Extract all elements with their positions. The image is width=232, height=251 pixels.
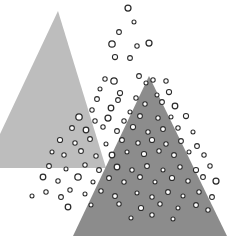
scatter-point <box>201 175 206 180</box>
scatter-point <box>176 126 180 130</box>
scatter-point <box>116 98 121 103</box>
scatter-point <box>130 168 134 172</box>
scatter-point <box>160 100 165 105</box>
scatter-point <box>144 81 148 85</box>
scatter-point <box>109 152 115 158</box>
scatter-point <box>213 178 219 184</box>
scatter-point <box>156 116 160 120</box>
scatter-point <box>161 168 165 172</box>
scatter-point <box>122 119 126 123</box>
scatter-point <box>161 127 166 132</box>
scatter-point <box>193 167 198 172</box>
scatter-point <box>172 153 177 158</box>
scatter-point <box>91 180 95 184</box>
scatter-point <box>112 54 117 59</box>
scatter-point <box>59 195 64 200</box>
scatter-point <box>179 139 184 144</box>
scatter-point <box>134 96 138 100</box>
scatter-point <box>191 130 195 134</box>
scatter-point <box>30 194 34 198</box>
scatter-point <box>62 153 66 157</box>
scatter-point <box>138 175 143 180</box>
scatter-point <box>117 202 121 206</box>
scatter-point <box>104 142 108 146</box>
scatter-point <box>149 137 154 142</box>
scatter-point <box>150 213 154 217</box>
scatter-point <box>117 30 122 35</box>
scatter-point <box>56 179 60 183</box>
scatter-point <box>158 202 162 206</box>
scatter-point <box>89 203 93 207</box>
scatter-point <box>97 168 102 173</box>
scatter-point <box>164 79 168 83</box>
scatter-point <box>76 114 82 120</box>
scatter-point <box>206 208 210 212</box>
scatter-point <box>101 125 105 129</box>
scatter-point <box>83 192 87 196</box>
scatter-point <box>166 89 171 94</box>
scatter-point <box>57 137 62 142</box>
scatter-point <box>83 163 87 167</box>
scatter-point <box>138 205 143 210</box>
scatter-point <box>64 167 68 171</box>
scatter-point <box>143 102 147 106</box>
scatter-point <box>151 78 155 82</box>
scatter-point <box>70 126 75 131</box>
scatter-point <box>128 110 132 114</box>
scatter-point <box>105 115 111 121</box>
scatter-point <box>135 191 139 195</box>
scatter-point <box>65 204 71 210</box>
scatter-point <box>150 195 154 199</box>
scatter-point <box>120 138 125 143</box>
scatter-point <box>146 40 152 46</box>
scatter-point <box>128 56 133 61</box>
scatter-point <box>197 190 201 194</box>
scatter-point <box>115 129 120 134</box>
scatter-point <box>187 150 191 154</box>
scatter-point <box>172 103 178 109</box>
scatter-point <box>141 151 146 156</box>
scatter-point <box>94 154 98 158</box>
scatter-point <box>98 87 102 91</box>
scatter-point <box>40 174 46 180</box>
scatter-point <box>130 124 135 129</box>
scatter-point <box>114 164 120 170</box>
scatter-point <box>117 90 122 95</box>
scatter-point <box>129 216 133 220</box>
scatter-point <box>186 179 190 183</box>
scatter-point <box>122 180 126 184</box>
scatter-point <box>155 93 159 97</box>
scatter-point <box>109 41 115 47</box>
scatter-point <box>90 108 94 112</box>
scatter-point <box>113 194 118 199</box>
plot-canvas <box>0 0 232 251</box>
scatter-point <box>171 217 175 221</box>
scatter-point <box>202 153 206 157</box>
scatter-point <box>50 150 54 154</box>
scatter-point <box>125 5 131 11</box>
scatter-point <box>157 149 161 153</box>
scatter-point <box>145 164 150 169</box>
scatter-point <box>166 190 171 195</box>
scatter-point <box>75 174 81 180</box>
scatter-point <box>137 74 142 79</box>
scatter-point <box>138 114 143 119</box>
scatter-point <box>153 180 157 184</box>
scatter-point <box>195 144 200 149</box>
scatter-point <box>146 130 150 134</box>
scatter-point <box>95 97 100 102</box>
scatter-point <box>99 189 103 193</box>
scatter-point <box>68 188 72 192</box>
scatter-point <box>136 141 140 145</box>
scatter-point <box>176 206 180 210</box>
scatter-point <box>103 77 107 81</box>
scatter-point <box>107 176 112 181</box>
scatter-point <box>47 164 52 169</box>
scatter-point <box>194 203 199 208</box>
scatter-point <box>44 190 48 194</box>
scatter-point <box>79 149 84 154</box>
scatter-point <box>208 164 212 168</box>
scatter-point <box>178 165 182 169</box>
scatter-point <box>93 119 97 123</box>
scatter-point <box>181 194 185 198</box>
